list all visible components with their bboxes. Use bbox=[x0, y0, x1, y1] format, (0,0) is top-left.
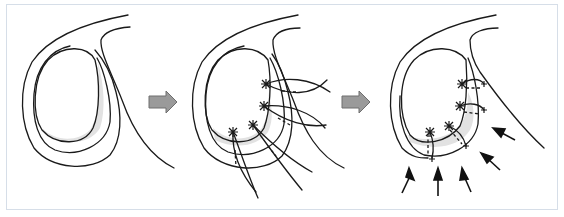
panel-2 bbox=[192, 15, 344, 198]
arrow-up-icon bbox=[460, 168, 468, 180]
panel-3 bbox=[390, 15, 544, 196]
arrow-up-icon bbox=[406, 168, 414, 180]
step-arrow-2 bbox=[342, 91, 370, 113]
panel-1 bbox=[22, 15, 174, 168]
arrow-up-left-icon bbox=[493, 128, 505, 137]
surgical-diagram bbox=[0, 0, 564, 217]
arrow-up-icon bbox=[434, 168, 442, 180]
step-arrow-1 bbox=[149, 91, 177, 113]
